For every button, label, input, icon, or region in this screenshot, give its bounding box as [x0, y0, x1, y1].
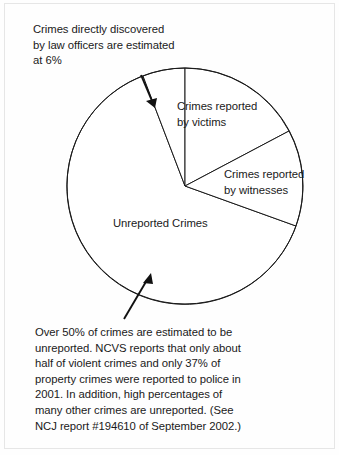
slice-label-witnesses: Crimes reported by witnesses [224, 167, 334, 198]
annotation-unreported-detail: Over 50% of crimes are estimated to be u… [35, 325, 285, 434]
figure-container: Crimes directly discovered by law office… [0, 0, 339, 455]
slice-label-victims: Crimes reported by victims [177, 99, 287, 130]
annotation-law-officers: Crimes directly discovered by law office… [33, 22, 243, 69]
slice-label-unreported: Unreported Crimes [113, 216, 243, 232]
